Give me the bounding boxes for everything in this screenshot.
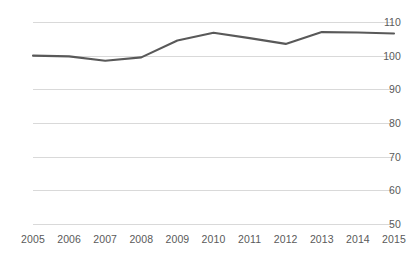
data-series-line [33, 32, 394, 61]
